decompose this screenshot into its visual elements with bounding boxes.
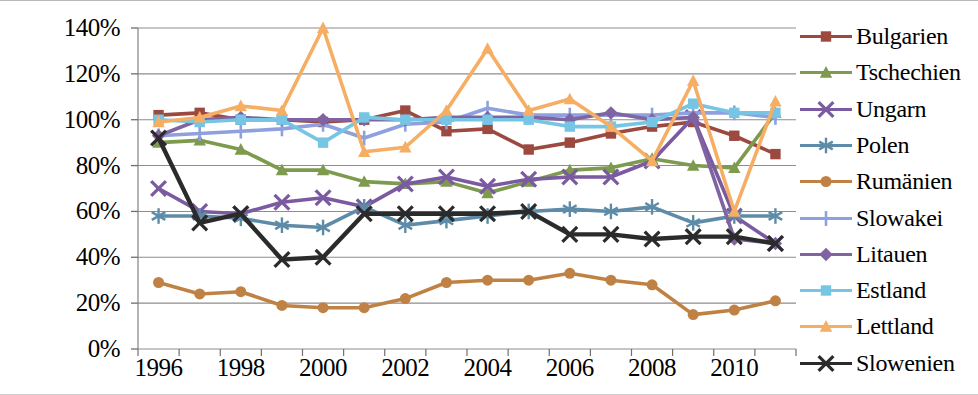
legend-label: Litauen (856, 241, 927, 267)
x-axis-tick-label: 2004 (464, 353, 512, 383)
legend-swatch-icon (800, 135, 852, 155)
data-series-layer (138, 28, 796, 349)
x-axis-tick-label: 2006 (546, 353, 594, 383)
legend-marker-square-icon (812, 279, 840, 301)
legend-swatch-icon (800, 316, 852, 336)
y-axis-tick-label: 20% (76, 290, 120, 315)
legend-swatch-icon (800, 353, 852, 373)
legend-item-bulgarien[interactable]: Bulgarien (800, 19, 948, 53)
y-axis-tick-label: 120% (64, 61, 120, 86)
legend-item-litauen[interactable]: Litauen (800, 237, 927, 271)
legend-item-estland[interactable]: Estland (800, 273, 926, 307)
legend-marker-diamond-icon (812, 243, 840, 265)
legend-marker-asterisk-icon (812, 134, 840, 156)
x-axis-tick-label: 2008 (628, 353, 676, 383)
legend-swatch-icon (800, 171, 852, 191)
legend-label: Tschechien (856, 59, 961, 85)
legend-swatch-icon (800, 280, 852, 300)
y-axis-tick-label: 80% (76, 153, 120, 178)
legend-label: Rumänien (856, 168, 952, 194)
legend-swatch-icon (800, 62, 852, 82)
legend-marker-triangle-icon (812, 315, 840, 337)
legend-marker-circle-icon (812, 170, 840, 192)
legend-item-slowakei[interactable]: Slowakei (800, 201, 943, 235)
x-axis-tick-label: 2002 (381, 353, 429, 383)
series-litauen (152, 106, 782, 250)
legend-label: Ungarn (856, 96, 926, 122)
legend-marker-square-icon (812, 25, 840, 47)
x-axis-tick-label: 2000 (299, 353, 347, 383)
legend-item-lettland[interactable]: Lettland (800, 309, 934, 343)
legend-label: Estland (856, 277, 926, 303)
y-axis-tick-label: 0% (88, 336, 120, 361)
y-axis-tick-label: 100% (64, 107, 120, 132)
x-axis-tick-label: 2010 (710, 353, 758, 383)
plot-area (138, 28, 796, 349)
legend-item-ungarn[interactable]: Ungarn (800, 92, 926, 126)
legend-label: Slowenien (856, 350, 955, 376)
series-rumänien (153, 268, 781, 320)
y-axis-tick-label: 140% (64, 15, 120, 40)
legend-marker-x-icon (812, 98, 840, 120)
legend-marker-triangle-icon (812, 61, 840, 83)
legend-label: Polen (856, 132, 909, 158)
legend-swatch-icon (800, 26, 852, 46)
legend-item-polen[interactable]: Polen (800, 128, 909, 162)
x-axis-tick-label: 1996 (135, 353, 183, 383)
y-axis-tick-label: 60% (76, 198, 120, 223)
legend: BulgarienTschechienUngarnPolenRumänienSl… (800, 11, 978, 381)
legend-swatch-icon (800, 208, 852, 228)
legend-marker-x-icon (812, 352, 840, 374)
legend-item-slowenien[interactable]: Slowenien (800, 346, 955, 380)
legend-item-tschechien[interactable]: Tschechien (800, 55, 961, 89)
legend-label: Lettland (856, 313, 934, 339)
x-axis: 19961998200020022004200620082010 (138, 353, 796, 393)
legend-marker-plus-icon (812, 207, 840, 229)
legend-label: Bulgarien (856, 23, 948, 49)
y-axis-tick-label: 40% (76, 244, 120, 269)
legend-swatch-icon (800, 99, 852, 119)
y-axis: 0%20%40%60%80%100%120%140% (0, 1, 128, 395)
line-chart: 0%20%40%60%80%100%120%140% 1996199820002… (0, 0, 978, 395)
x-axis-tick-label: 1998 (217, 353, 265, 383)
legend-swatch-icon (800, 244, 852, 264)
legend-label: Slowakei (856, 205, 943, 231)
legend-item-rumänien[interactable]: Rumänien (800, 164, 952, 198)
